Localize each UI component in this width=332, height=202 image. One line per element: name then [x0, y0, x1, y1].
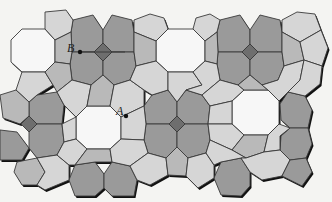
label-point-a: A [116, 104, 123, 119]
octagon-tile [232, 90, 279, 135]
octagon-tile [11, 29, 55, 72]
point-a-dot [124, 114, 128, 118]
heptagon-tile [103, 15, 134, 52]
heptagon-tile [0, 130, 29, 160]
octagon-tile [76, 106, 121, 149]
heptagon-tile [217, 15, 250, 52]
point-b-dot [78, 50, 82, 54]
pentagon-tile [62, 117, 76, 142]
tiling-diagram: B A [0, 0, 332, 202]
octagon-tile [156, 29, 205, 72]
label-point-b: B [67, 41, 74, 56]
heptagon-tile [69, 162, 104, 196]
tile-layer [0, 10, 328, 196]
tiling-svg [0, 0, 332, 202]
heptagon-tile [250, 15, 282, 52]
heptagon-tile [71, 15, 103, 52]
